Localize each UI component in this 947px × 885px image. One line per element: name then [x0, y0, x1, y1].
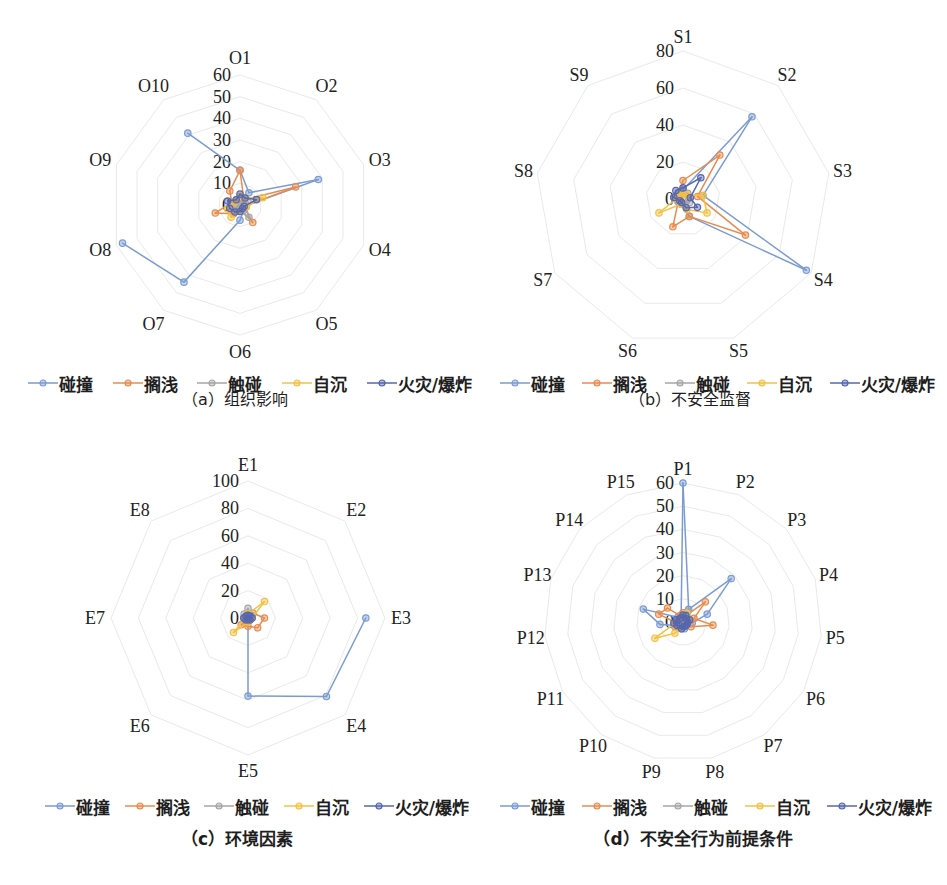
legend-item-grounding: 搁浅: [582, 794, 647, 819]
data-point-marker: [227, 188, 233, 194]
radial-tick-label: 60: [213, 65, 231, 85]
series-collision: [244, 612, 369, 700]
legend-line-marker-icon: [364, 800, 394, 812]
axis-label-o1: O1: [229, 48, 251, 68]
axis-label-p10: P10: [579, 736, 607, 756]
axis-label-s8: S8: [514, 161, 533, 181]
radial-tick-label: 60: [656, 473, 674, 493]
data-point-marker: [323, 693, 329, 699]
axis-label-o8: O8: [89, 240, 111, 260]
legend-label: 触碰: [235, 794, 269, 819]
axis-label-o4: O4: [369, 240, 391, 260]
legend-line-marker-icon: [282, 377, 312, 389]
data-point-marker: [245, 693, 251, 699]
data-point-marker: [212, 210, 218, 216]
data-point-marker: [704, 611, 710, 617]
category-axis-labels: O1O2O3O4O5O6O7O8O9O10: [89, 48, 391, 362]
radial-tick-label: 100: [212, 471, 239, 491]
axis-label-s2: S2: [778, 65, 797, 85]
legend-line-marker-icon: [500, 800, 530, 812]
legend-item-contact: 触碰: [204, 794, 269, 819]
data-point-marker: [640, 606, 646, 612]
data-point-marker: [656, 210, 662, 216]
data-point-marker: [243, 613, 249, 619]
data-point-marker: [226, 205, 232, 211]
axis-label-p9: P9: [642, 762, 661, 782]
data-point-marker: [672, 630, 678, 636]
axis-label-e5: E5: [238, 761, 258, 781]
radial-tick-label: 20: [656, 566, 674, 586]
legend-line-marker-icon: [747, 377, 777, 389]
data-point-marker: [670, 224, 676, 230]
legend-label: 自沉: [776, 794, 810, 819]
data-point-marker: [292, 184, 298, 190]
legend-label: 搁浅: [156, 794, 190, 819]
axis-label-o7: O7: [143, 314, 165, 334]
data-point-marker: [230, 629, 236, 635]
radial-tick-label: 80: [221, 498, 239, 518]
axis-label-o3: O3: [369, 150, 391, 170]
legend-label: 碰撞: [531, 794, 565, 819]
axis-label-o6: O6: [229, 342, 251, 362]
data-point-marker: [700, 192, 706, 198]
radar-chart-environmental-factors: 020406080100E1E2E3E4E5E6E7E8: [0, 430, 480, 790]
legend-line-marker-icon: [582, 800, 612, 812]
legend-item-sinking: 自沉: [284, 794, 349, 819]
caption-a: （a）组织影响: [0, 390, 470, 410]
radial-tick-label: 60: [221, 526, 239, 546]
axis-label-s9: S9: [569, 65, 588, 85]
legend-item-collision: 碰撞: [45, 794, 110, 819]
axis-label-p2: P2: [736, 472, 755, 492]
legend-line-marker-icon: [665, 377, 695, 389]
axis-label-e6: E6: [130, 716, 150, 736]
axis-label-s7: S7: [533, 270, 552, 290]
radial-tick-label: 40: [656, 519, 674, 539]
data-point-marker: [246, 214, 252, 220]
series-collision: [674, 114, 809, 274]
legend-item-collision: 碰撞: [500, 794, 565, 819]
legend-line-marker-icon: [582, 377, 612, 389]
legend-line-marker-icon: [500, 377, 530, 389]
legend-label: 火灾/爆炸: [858, 794, 932, 819]
radial-tick-label: 20: [656, 152, 674, 172]
radar-chart-preconditions-unsafe-acts: 0102030405060P1P2P3P4P5P6P7P8P9P10P11P12…: [470, 430, 947, 790]
legend-item-fire-explosion: 火灾/爆炸: [827, 794, 932, 819]
axis-label-o2: O2: [315, 76, 337, 96]
legend-line-marker-icon: [113, 377, 143, 389]
data-point-marker: [717, 152, 723, 158]
data-point-marker: [261, 598, 267, 604]
axis-label-p1: P1: [673, 459, 692, 479]
axis-label-p5: P5: [826, 628, 845, 648]
legend-label: 碰撞: [76, 794, 110, 819]
data-point-marker: [677, 198, 683, 204]
panel-unsafe-supervision: 020406080S1S2S3S4S5S6S7S8S9: [470, 0, 947, 420]
data-point-marker: [803, 267, 809, 273]
axis-label-s1: S1: [673, 27, 692, 47]
data-point-marker: [259, 194, 265, 200]
axis-label-p7: P7: [763, 736, 782, 756]
radial-tick-label: 40: [656, 115, 674, 135]
data-point-marker: [742, 232, 748, 238]
legend-c: 碰撞 搁浅 触碰 自沉 火灾/爆炸: [45, 795, 469, 817]
data-point-marker: [698, 175, 704, 181]
data-point-marker: [686, 213, 692, 219]
axis-label-p4: P4: [819, 565, 838, 585]
data-point-marker: [363, 615, 369, 621]
radar-gridlines: [116, 75, 363, 335]
data-point-marker: [233, 197, 239, 203]
axis-label-s3: S3: [833, 161, 852, 181]
legend-line-marker-icon: [28, 377, 58, 389]
data-point-marker: [652, 635, 658, 641]
axis-label-o9: O9: [89, 150, 111, 170]
radar-chart-unsafe-supervision: 020406080S1S2S3S4S5S6S7S8S9: [470, 0, 947, 370]
radial-tick-label: 50: [213, 87, 231, 107]
legend-d: 碰撞 搁浅 触碰 自沉 火灾/爆炸: [500, 795, 932, 817]
data-point-marker: [181, 279, 187, 285]
axis-label-o10: O10: [138, 76, 169, 96]
radial-tick-label: 30: [656, 543, 674, 563]
axis-label-p6: P6: [806, 689, 825, 709]
axis-label-e2: E2: [346, 500, 366, 520]
axis-label-s6: S6: [618, 341, 637, 361]
legend-label: 自沉: [315, 794, 349, 819]
axis-label-e4: E4: [346, 716, 366, 736]
